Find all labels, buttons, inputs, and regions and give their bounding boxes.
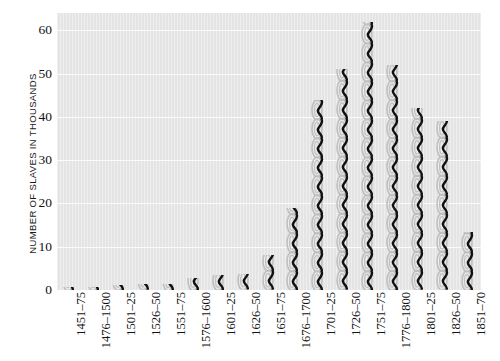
y-tick-label: 20 <box>18 196 52 210</box>
x-tick-label: 1851–70 <box>474 292 489 336</box>
x-tick-label: 1801–25 <box>424 292 439 336</box>
bar[interactable] <box>137 284 152 290</box>
x-axis-tick-labels: 1451–751476–15001501–251526–501551–75157… <box>57 292 481 361</box>
bar[interactable] <box>311 100 326 290</box>
x-tick-label: 1501–25 <box>124 292 139 336</box>
bar[interactable] <box>237 274 252 290</box>
x-tick-label: 1826–50 <box>449 292 464 336</box>
bar[interactable] <box>112 285 127 290</box>
x-tick-label: 1626–50 <box>249 292 264 336</box>
x-tick-label: 1551–75 <box>174 292 189 336</box>
plot-area <box>57 13 481 290</box>
x-tick-label: 1601–25 <box>224 292 239 336</box>
bar[interactable] <box>436 121 451 290</box>
bar[interactable] <box>361 22 376 290</box>
y-tick-label: 60 <box>18 23 52 37</box>
x-tick-label: 1476–1500 <box>99 292 114 348</box>
x-tick-label: 1651–75 <box>274 292 289 336</box>
x-tick-label: 1751–75 <box>374 292 389 336</box>
bar[interactable] <box>411 108 426 290</box>
bar[interactable] <box>386 65 401 290</box>
x-tick-label: 1776–1800 <box>399 292 414 348</box>
x-tick-label: 1701–25 <box>324 292 339 336</box>
x-tick-label: 1576–1600 <box>199 292 214 348</box>
bar[interactable] <box>262 255 277 290</box>
bars-layer <box>57 13 481 290</box>
x-tick-label: 1676–1700 <box>299 292 314 348</box>
bar[interactable] <box>162 284 177 290</box>
x-tick-label: 1526–50 <box>149 292 164 336</box>
bar[interactable] <box>62 287 77 290</box>
bar[interactable] <box>286 208 301 290</box>
y-tick-label: 0 <box>18 283 52 297</box>
bar[interactable] <box>336 69 351 290</box>
y-tick-label: 40 <box>18 110 52 124</box>
y-tick-label: 10 <box>18 240 52 254</box>
bar[interactable] <box>87 287 102 290</box>
chart-root: NUMBER OF SLAVES IN THOUSANDS 0102030405… <box>0 0 500 361</box>
bar[interactable] <box>212 275 227 290</box>
x-tick-label: 1451–75 <box>74 292 89 336</box>
y-tick-label: 50 <box>18 67 52 81</box>
y-tick-label: 30 <box>18 153 52 167</box>
x-tick-label: 1726–50 <box>349 292 364 336</box>
bar[interactable] <box>187 278 202 290</box>
bar[interactable] <box>461 232 476 290</box>
y-axis-tick-labels: 0102030405060 <box>14 0 52 361</box>
